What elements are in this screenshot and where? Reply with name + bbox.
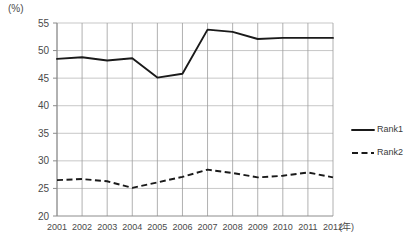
x-tick-label: 2009 bbox=[248, 222, 268, 232]
y-tick-label: 40 bbox=[38, 100, 50, 111]
x-tick-label: 2006 bbox=[172, 222, 192, 232]
legend-label-rank2: Rank2 bbox=[377, 147, 403, 157]
x-tick-label: 2001 bbox=[47, 222, 67, 232]
chart-canvas: 2025303540455055 20012002200320042005200… bbox=[0, 0, 404, 235]
x-tick-label: 2011 bbox=[298, 222, 317, 232]
x-tick-label: 2004 bbox=[122, 222, 142, 232]
horizontal-gridlines bbox=[57, 23, 333, 188]
y-tick-label: 55 bbox=[38, 18, 50, 29]
x-tick-label: 2008 bbox=[223, 222, 243, 232]
y-tick-label: 35 bbox=[38, 128, 50, 139]
x-tick-label: 2003 bbox=[97, 222, 117, 232]
x-axis-tick-labels: 2001200220032004200520062007200820092010… bbox=[47, 222, 343, 232]
legend-label-rank1: Rank1 bbox=[377, 124, 403, 134]
x-tick-label: 2005 bbox=[147, 222, 167, 232]
data-series-group bbox=[57, 30, 333, 188]
line-chart: (%) 2025303540455055 2001200220032004200… bbox=[0, 0, 404, 235]
series-line-rank2 bbox=[57, 170, 333, 188]
x-axis-unit-label: (年) bbox=[339, 221, 354, 232]
x-tick-label: 2002 bbox=[72, 222, 92, 232]
series-line-rank1 bbox=[57, 30, 333, 78]
y-tick-label: 50 bbox=[38, 45, 50, 56]
chart-legend: Rank1Rank2 bbox=[352, 124, 403, 157]
x-axis-unit-text: (年) bbox=[339, 221, 354, 232]
y-tick-label: 45 bbox=[38, 73, 50, 84]
y-tick-label: 20 bbox=[38, 211, 50, 222]
y-tick-label: 30 bbox=[38, 155, 50, 166]
y-axis-tick-labels: 2025303540455055 bbox=[38, 18, 57, 222]
y-tick-label: 25 bbox=[38, 183, 50, 194]
x-tick-label: 2007 bbox=[198, 222, 218, 232]
x-tick-label: 2010 bbox=[273, 222, 293, 232]
